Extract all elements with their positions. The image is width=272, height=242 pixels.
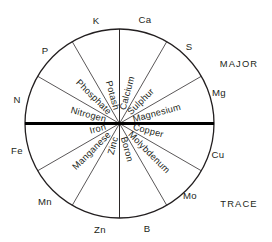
rim-label-mo: Mo: [183, 190, 197, 201]
rim-label-s: S: [186, 41, 193, 52]
wheel-canvas: NitrogenPhosphatePotashCalciumSulphurMag…: [0, 0, 272, 242]
rim-label-b: B: [144, 223, 151, 234]
rim-label-mn: Mn: [38, 196, 52, 207]
nutrient-wheel-diagram: NitrogenPhosphatePotashCalciumSulphurMag…: [0, 0, 272, 242]
rim-label-p: P: [42, 45, 49, 56]
rim-label-fe: Fe: [11, 145, 23, 156]
rim-label-zn: Zn: [94, 224, 106, 235]
rim-label-ca: Ca: [139, 14, 152, 25]
category-label-trace: TRACE: [220, 198, 257, 209]
rim-label-k: K: [93, 15, 100, 26]
rim-label-cu: Cu: [212, 149, 225, 160]
rim-label-n: N: [13, 94, 20, 105]
rim-label-mg: Mg: [212, 87, 226, 98]
category-labels-group: MAJORTRACE: [220, 58, 258, 209]
category-label-major: MAJOR: [220, 58, 258, 69]
